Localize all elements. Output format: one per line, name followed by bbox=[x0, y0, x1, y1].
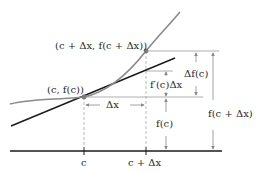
label-delta-x: Δx bbox=[106, 99, 119, 110]
tangent-line bbox=[11, 58, 175, 126]
label-point-c: (c, f(c)) bbox=[47, 84, 84, 95]
differential-diagram: (c, f(c)) (c + Δx, f(c + Δx)) Δx f′(c)Δx… bbox=[0, 0, 258, 172]
label-tick-c: c bbox=[81, 157, 87, 168]
label-point-c-dx: (c + Δx, f(c + Δx)) bbox=[55, 40, 147, 51]
function-curve bbox=[10, 12, 180, 104]
label-fprime-dx: f′(c)Δx bbox=[150, 79, 183, 90]
point-c bbox=[82, 95, 87, 100]
label-delta-f: Δf(c) bbox=[184, 68, 208, 79]
label-f-c: f(c) bbox=[156, 118, 173, 129]
label-f-c-dx: f(c + Δx) bbox=[208, 108, 253, 119]
label-tick-c-dx: c + Δx bbox=[128, 157, 162, 168]
